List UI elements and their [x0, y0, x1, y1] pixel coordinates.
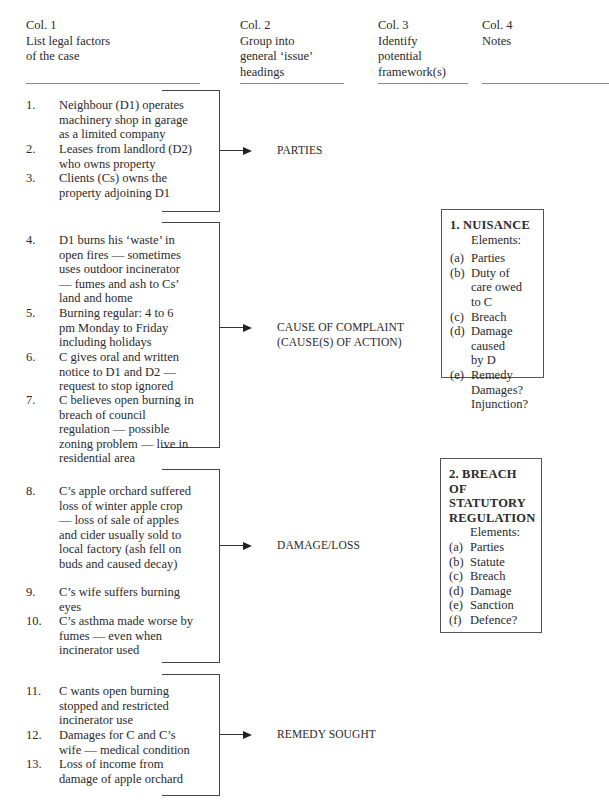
factor-number: 10. — [26, 614, 54, 629]
framework-element: (d) Damage caused by D — [450, 324, 537, 368]
framework-box-nuisance: 1. NUISANCE Elements: (a) Parties (b) Du… — [441, 209, 544, 378]
column-2-header: Col. 2 Group into general ‘issue’ headin… — [240, 18, 313, 80]
column-description: of the case — [26, 49, 110, 65]
column-description: headings — [240, 65, 313, 81]
framework-element: (d) Damage — [449, 584, 535, 599]
element-label: (f) — [449, 613, 462, 628]
framework-element: (b) Statute — [449, 555, 535, 570]
element-text: Defence? — [470, 613, 535, 628]
elements-label: Elements: — [450, 233, 537, 248]
element-label: (a) — [450, 251, 464, 266]
issue-heading-parties: PARTIES — [277, 143, 323, 158]
element-text: Remedy — [471, 368, 537, 383]
framework-element: (e) Remedy Damages? Injunction? — [450, 368, 537, 412]
column-description: Identify — [378, 34, 446, 50]
column-description: Notes — [482, 34, 513, 50]
framework-title: 2. BREACH OF STATUTORY REGULATION — [449, 467, 535, 525]
element-text: Damage — [471, 324, 537, 339]
factor-number: 2. — [26, 142, 54, 157]
column-label: Col. 3 — [378, 18, 446, 34]
factor-item-4: 4. D1 burns his ‘waste’ in open fires — … — [26, 233, 216, 306]
element-label: (e) — [450, 368, 464, 383]
factor-item-5: 5. Burning regular: 4 to 6 pm Monday to … — [26, 306, 216, 350]
factor-text: C’s wife suffers burning eyes — [59, 585, 184, 614]
framework-element: (b) Duty of care owed to C — [450, 266, 537, 310]
element-text: by D — [471, 353, 537, 368]
factor-text: C wants open burning stopped and restric… — [59, 684, 184, 728]
factor-text: Clients (Cs) owns the property adjoining… — [59, 171, 189, 200]
factor-item-7: 7. C believes open burning in breach of … — [26, 393, 216, 466]
factor-text: Neighbour (D1) operates machinery shop i… — [59, 98, 189, 142]
element-text: Parties — [470, 540, 535, 555]
element-text: Duty of — [471, 266, 537, 281]
factor-item-8: 8. C’s apple orchard suffered loss of wi… — [26, 484, 216, 572]
element-text: care owed — [471, 280, 537, 295]
column-description: potential — [378, 49, 446, 65]
issue-heading-line: DAMAGE/LOSS — [277, 538, 360, 553]
arrow-right-icon — [220, 545, 246, 546]
element-label: (e) — [449, 598, 463, 613]
factor-item-1: 1. Neighbour (D1) operates machinery sho… — [26, 98, 216, 142]
factor-text: Burning regular: 4 to 6 pm Monday to Fri… — [59, 306, 191, 350]
element-label: (d) — [450, 324, 465, 339]
issue-heading-damage-loss: DAMAGE/LOSS — [277, 538, 360, 553]
factor-number: 6. — [26, 350, 54, 365]
column-3-header: Col. 3 Identify potential framework(s) — [378, 18, 446, 80]
framework-element: (a) Parties — [449, 540, 535, 555]
element-label: (c) — [449, 569, 463, 584]
factor-number: 1. — [26, 98, 54, 113]
element-text: to C — [471, 295, 537, 310]
column-4-header: Col. 4 Notes — [482, 18, 513, 49]
factor-number: 13. — [26, 757, 54, 772]
element-text: Damage — [470, 584, 535, 599]
column-description: general ‘issue’ — [240, 49, 313, 65]
factor-item-11: 11. C wants open burning stopped and res… — [26, 684, 216, 728]
element-label: (c) — [450, 310, 464, 325]
factor-item-12: 12. Damages for C and C’s wife — medical… — [26, 728, 216, 757]
factor-number: 7. — [26, 393, 54, 408]
elements-label: Elements: — [449, 525, 535, 540]
factor-text: C’s asthma made worse by fumes — even wh… — [59, 614, 194, 658]
element-label: (b) — [450, 266, 465, 281]
framework-element: (c) Breach — [450, 310, 537, 325]
element-label: (d) — [449, 584, 464, 599]
column-label: Col. 4 — [482, 18, 513, 34]
factor-number: 11. — [26, 684, 54, 699]
element-text: Injunction? — [471, 397, 537, 412]
factor-text: Damages for C and C’s wife — medical con… — [59, 728, 194, 757]
element-label: (a) — [449, 540, 463, 555]
factor-text: C’s apple orchard suffered loss of winte… — [59, 484, 194, 572]
arrow-right-icon — [220, 734, 246, 735]
element-text: Parties — [471, 251, 537, 266]
issue-heading-line: CAUSE OF COMPLAINT — [277, 320, 404, 335]
element-text: Breach — [470, 569, 535, 584]
column-description: List legal factors — [26, 34, 110, 50]
framework-element: (e) Sanction — [449, 598, 535, 613]
element-text: Breach — [471, 310, 537, 325]
factor-item-6: 6. C gives oral and written notice to D1… — [26, 350, 216, 394]
factor-item-2: 2. Leases from landlord (D2) who owns pr… — [26, 142, 216, 171]
issue-heading-line: (CAUSE(S) OF ACTION) — [277, 335, 404, 350]
framework-box-breach-of-statutory-regulation: 2. BREACH OF STATUTORY REGULATION Elemen… — [440, 458, 542, 633]
factor-item-10: 10. C’s asthma made worse by fumes — eve… — [26, 614, 216, 658]
element-text: Damages? — [471, 383, 537, 398]
framework-title-line: STATUTORY — [449, 496, 535, 511]
element-text: Statute — [470, 555, 535, 570]
factor-text: D1 burns his ‘waste’ in open fires — som… — [59, 233, 191, 306]
column-2-rule — [240, 83, 344, 84]
column-description: Group into — [240, 34, 313, 50]
factor-number: 4. — [26, 233, 54, 248]
issue-heading-remedy-sought: REMEDY SOUGHT — [277, 727, 376, 742]
framework-title-line: 1. NUISANCE — [450, 218, 537, 233]
column-3-rule — [378, 83, 468, 84]
column-1-rule — [26, 83, 200, 84]
factor-text: C believes open burning in breach of cou… — [59, 393, 199, 466]
arrow-right-icon — [220, 327, 246, 328]
factor-text: C gives oral and written notice to D1 an… — [59, 350, 187, 394]
column-1-header: Col. 1 List legal factors of the case — [26, 18, 110, 65]
column-description: framework(s) — [378, 65, 446, 81]
framework-title-line: REGULATION — [449, 511, 535, 526]
issue-heading-line: REMEDY SOUGHT — [277, 727, 376, 742]
framework-title-line: 2. BREACH — [449, 467, 535, 482]
element-label: (b) — [449, 555, 464, 570]
